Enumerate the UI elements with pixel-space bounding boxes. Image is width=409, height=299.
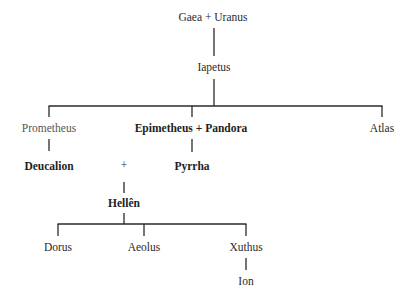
node-dorus: Dorus — [44, 242, 72, 254]
tree-connectors — [0, 0, 409, 299]
node-atlas: Atlas — [370, 123, 394, 135]
node-plus-marriage: + — [121, 160, 128, 172]
node-iapetus: Iapetus — [197, 62, 230, 74]
node-pyrrha: Pyrrha — [174, 161, 209, 173]
node-gaea-uranus: Gaea + Uranus — [178, 12, 247, 24]
node-ion: Ion — [238, 276, 253, 288]
node-prometheus: Prometheus — [22, 123, 76, 135]
node-aeolus: Aeolus — [128, 242, 161, 254]
node-hellen: Hellên — [108, 198, 140, 210]
node-epimetheus-pandora: Epimetheus + Pandora — [135, 123, 248, 135]
node-xuthus: Xuthus — [229, 242, 262, 254]
node-deucalion: Deucalion — [24, 161, 73, 173]
